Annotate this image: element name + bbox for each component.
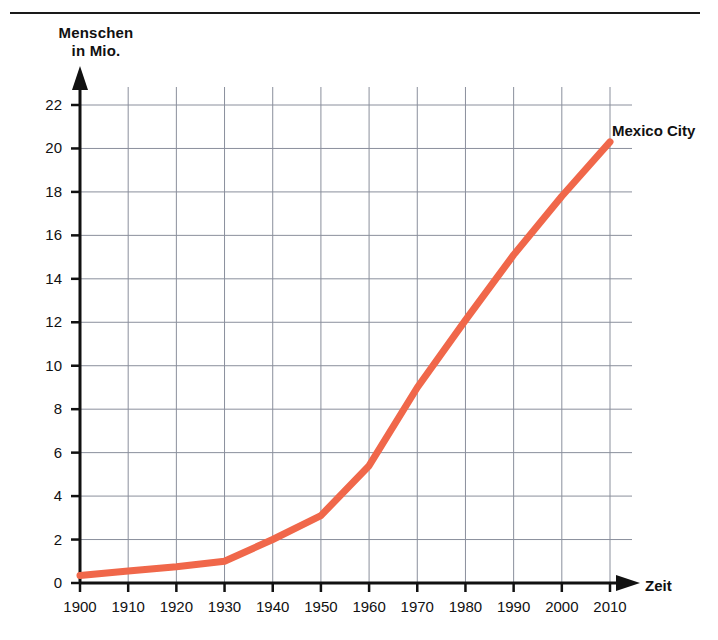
data-series-line-mexico-city: [80, 142, 610, 576]
grid-lines-vertical: [128, 87, 610, 583]
x-axis-label: Zeit: [645, 577, 672, 594]
series-label-mexico-city: Mexico City: [612, 122, 695, 139]
x-axis-tick-label: 1970: [394, 599, 440, 614]
y-axis-tick-label: 20: [28, 140, 62, 155]
y-axis-tick-label: 4: [28, 488, 62, 503]
x-axis-tick-label: 1980: [442, 599, 488, 614]
y-axis-tick-label: 8: [28, 401, 62, 416]
y-axis-tick-label: 10: [28, 358, 62, 373]
y-axis-tick-label: 16: [28, 227, 62, 242]
y-axis-tick-label: 0: [28, 575, 62, 590]
y-axis-arrow-icon: [72, 66, 88, 90]
x-axis-tick-label: 1960: [346, 599, 392, 614]
x-axis-tick-label: 1940: [250, 599, 296, 614]
y-axis-tick-label: 2: [28, 532, 62, 547]
x-axis-tick-label: 1910: [105, 599, 151, 614]
y-axis-tick-label: 22: [28, 97, 62, 112]
y-axis-tick-label: 14: [28, 271, 62, 286]
y-axis-tick-label: 18: [28, 184, 62, 199]
x-axis-tick-label: 1930: [202, 599, 248, 614]
x-axis-tick-label: 1950: [298, 599, 344, 614]
x-axis-tick-label: 1920: [153, 599, 199, 614]
chart-plot-area: [0, 0, 718, 640]
x-axis-tick-label: 2000: [539, 599, 585, 614]
y-axis-tick-label: 6: [28, 445, 62, 460]
x-axis-tick-label: 2010: [587, 599, 633, 614]
y-axis-tick-label: 12: [28, 314, 62, 329]
x-axis-tick-label: 1990: [491, 599, 537, 614]
x-axis-arrow-icon: [616, 575, 640, 591]
chart-page: Menschen in Mio. 0246810121416182022 190…: [0, 0, 718, 640]
x-axis-tick-label: 1900: [57, 599, 103, 614]
